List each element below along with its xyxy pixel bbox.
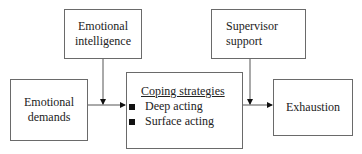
node-label-line1: Emotional: [24, 95, 74, 110]
node-label-line1: Supervisor: [226, 19, 305, 34]
node-label-line1: Emotional: [78, 19, 128, 34]
node-supervisor-support: Supervisor support: [211, 9, 306, 59]
node-emotional-intelligence: Emotional intelligence: [64, 9, 142, 59]
list-item-label: Surface acting: [145, 114, 214, 129]
node-label-line2: support: [226, 34, 305, 49]
list-item: Surface acting: [128, 114, 242, 129]
square-bullet-icon: [129, 104, 135, 110]
node-exhaustion: Exhaustion: [273, 79, 353, 136]
node-emotional-demands: Emotional demands: [10, 79, 88, 141]
node-label-line2: intelligence: [75, 34, 131, 49]
node-coping-strategies: Coping strategies Deep acting Surface ac…: [126, 72, 243, 149]
list-item: Deep acting: [128, 99, 242, 114]
node-label: Exhaustion: [286, 100, 340, 115]
node-label-line2: demands: [28, 110, 71, 125]
coping-title: Coping strategies: [141, 84, 242, 99]
square-bullet-icon: [129, 119, 135, 125]
list-item-label: Deep acting: [145, 99, 203, 114]
